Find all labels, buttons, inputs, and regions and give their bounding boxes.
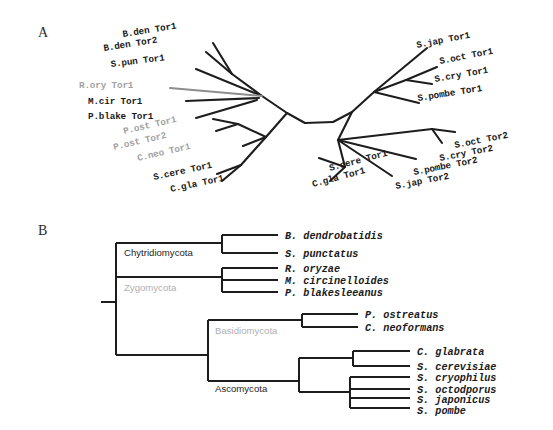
species-label-spun: S. punctatus [285,249,358,260]
species-label-mcir: M. circinelloides [284,276,389,287]
panel-b-letter: B [38,223,47,238]
species-label-cgla: C. glabrata [417,347,484,358]
species-label-rory: R. oryzae [285,264,340,275]
species-label-spombe: S. pombe [417,406,466,417]
species-label-scere: S. cerevisiae [417,362,496,373]
species-label-cneo: C. neoformans [365,323,444,334]
species-label-pblake: P. blakesleeanus [285,288,383,299]
phylum-label-zygomycota: Zygomycota [124,282,177,293]
figure-canvas: A [0,0,553,430]
species-label-scry: S. cryophilus [417,373,496,384]
branch-central-spine [305,122,333,123]
tip-label-rory-tor1: R.ory Tor1 [79,80,134,91]
phylum-label-ascomycota: Ascomycota [215,383,268,394]
species-label-post: P. ostreatus [365,310,438,321]
species-label-sjap: S. japonicus [417,395,490,406]
phylum-label-basidiomycota: Basidiomycota [215,325,278,336]
species-label-bden: B. dendrobatidis [285,231,383,242]
tip-label-mcir-tor1: M.cir Tor1 [88,96,143,107]
panel-a-letter: A [38,25,49,40]
phylum-label-chytridiomycota: Chytridiomycota [124,247,193,258]
